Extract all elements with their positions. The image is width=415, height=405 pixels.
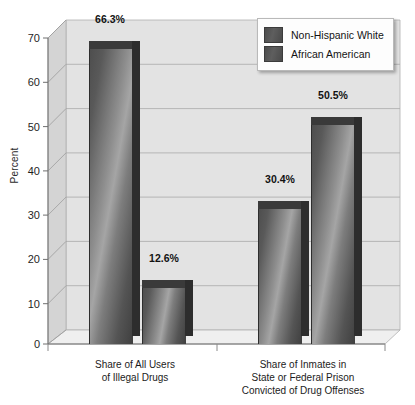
category-label-2-line1: Share of Inmates in [242,358,365,371]
bar-value-label-1: 66.3% [95,13,125,25]
bar-right-face [354,117,362,336]
category-label-1-line2: of Illegal Drugs [95,371,175,384]
bar-top-face [89,41,132,49]
bar-front-face [311,125,355,344]
bar-front-face [258,209,302,344]
bar-top-face [142,280,185,288]
bar-group1-non-hispanic-white[interactable] [89,0,132,344]
bar-value-label-3: 30.4% [265,173,295,185]
bar-value-label-4: 50.5% [318,89,348,101]
legend-label: Non-Hispanic White [291,29,384,41]
bar-right-face [185,280,193,336]
bar-front-face [142,288,186,344]
category-label-1-line1: Share of All Users [95,358,175,371]
legend-label: African American [291,48,370,60]
bar-top-face [258,201,301,209]
legend: Non-Hispanic White African American [257,18,394,71]
legend-swatch-icon [264,27,283,43]
legend-item-african-american[interactable]: African American [264,46,384,62]
bar-right-face [301,201,309,336]
category-label-2-line2: State or Federal Prison [242,371,365,384]
bar-top-face [311,117,354,125]
category-label-2: Share of Inmates in State or Federal Pri… [242,358,365,397]
legend-item-non-hispanic-white[interactable]: Non-Hispanic White [264,27,384,43]
bar-right-face [132,41,140,336]
bar-chart: Percent 70 60 50 40 30 20 10 0 66.3% 12.… [0,0,415,405]
legend-swatch-icon [264,46,283,62]
category-label-2-line3: Convicted of Drug Offenses [242,384,365,397]
bar-front-face [89,49,133,344]
category-label-1: Share of All Users of Illegal Drugs [95,358,175,384]
bar-value-label-2: 12.6% [149,252,179,264]
bar-group1-african-american[interactable] [142,0,185,344]
